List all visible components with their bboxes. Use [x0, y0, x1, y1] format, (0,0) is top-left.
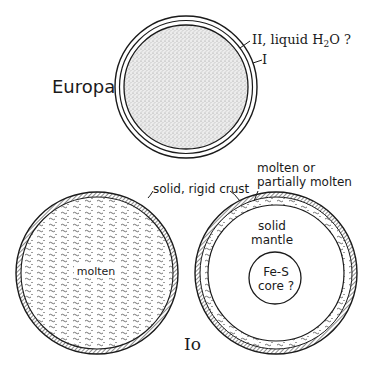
io-molten-model: molten — [16, 192, 178, 354]
core-label-line1: Fe-S — [263, 265, 289, 279]
europa-layer-I-label: I — [262, 52, 267, 67]
io-crust-label: solid, rigid crust — [153, 182, 250, 196]
io-melt-layer-label-line2: partially molten — [257, 175, 352, 189]
io-left-molten-label: molten — [77, 265, 116, 278]
europa-core-stippled — [124, 25, 248, 149]
planetary-interior-diagram: Europa II, liquid H2O ? I molten solid m… — [0, 0, 368, 368]
io-layered-model: solid mantle Fe-S core ? — [195, 192, 357, 354]
io-title: Io — [184, 334, 201, 354]
leader-line-I — [253, 60, 262, 63]
mantle-label-line2: mantle — [251, 233, 293, 247]
core-label-line2: core ? — [258, 279, 294, 293]
mantle-label-line1: solid — [258, 219, 286, 233]
europa-diagram — [115, 16, 262, 158]
europa-title: Europa — [52, 76, 115, 97]
io-melt-layer-label-line1: molten or — [257, 161, 315, 175]
europa-layer-II-label: II, liquid H2O ? — [252, 32, 351, 49]
